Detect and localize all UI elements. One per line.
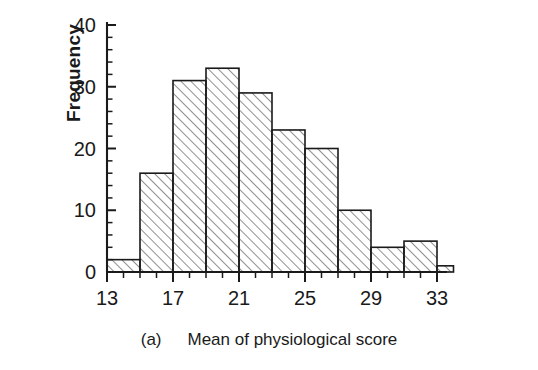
histogram-bar (338, 210, 371, 272)
histogram-bar (107, 260, 140, 272)
histogram-figure: Frequency 010203040131721252933 (a)Mean … (0, 0, 538, 370)
x-tick-label: 33 (426, 287, 448, 309)
x-tick-label: 29 (360, 287, 382, 309)
x-tick-label: 25 (294, 287, 316, 309)
histogram-bar (206, 68, 239, 272)
x-tick-label: 21 (228, 287, 250, 309)
y-tick-label: 40 (74, 14, 96, 36)
histogram-bar (173, 81, 206, 272)
caption-text: Mean of physiological score (188, 330, 398, 350)
y-tick-label: 30 (74, 76, 96, 98)
y-tick-label: 10 (74, 199, 96, 221)
y-tick-label: 0 (85, 261, 96, 283)
histogram-bar (404, 241, 437, 272)
y-tick-label: 20 (74, 138, 96, 160)
histogram-bar (371, 247, 404, 272)
histogram-bar (305, 149, 338, 273)
histogram-bar (239, 93, 272, 272)
x-tick-label: 13 (96, 287, 118, 309)
histogram-plot: 010203040131721252933 (0, 0, 538, 370)
x-tick-label: 17 (162, 287, 184, 309)
histogram-bar (272, 130, 305, 272)
histogram-bar (140, 173, 173, 272)
caption-tag: (a) (141, 330, 162, 350)
figure-caption: (a)Mean of physiological score (0, 330, 538, 350)
plot-area: 010203040131721252933 (74, 14, 454, 309)
